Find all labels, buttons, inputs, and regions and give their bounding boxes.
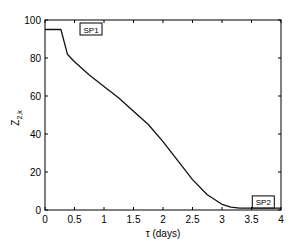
annotation-sp1: SP1 (80, 23, 102, 35)
y-axis-label-subscript: 2,k (16, 110, 23, 120)
x-tick-label: 0.5 (68, 214, 82, 225)
svg-text:SP2: SP2 (256, 198, 272, 207)
svg-text:SP1: SP1 (83, 26, 99, 35)
x-tick-label: 3 (219, 214, 225, 225)
line-chart: 00.511.522.533.54020406080100 SP1SP2 τ (… (0, 0, 296, 247)
x-tick-label: 1 (101, 214, 107, 225)
x-tick-label: 2 (160, 214, 166, 225)
y-tick-label: 0 (35, 205, 41, 216)
annotation-sp2: SP2 (252, 196, 274, 208)
x-axis-label: τ (days) (146, 228, 181, 239)
x-tick-label: 0 (42, 214, 48, 225)
y-tick-label: 20 (30, 167, 42, 178)
y-tick-label: 80 (30, 53, 42, 64)
y-tick-label: 40 (30, 129, 42, 140)
x-tick-label: 3.5 (245, 214, 259, 225)
x-tick-label: 4 (278, 214, 284, 225)
plot-area (45, 20, 281, 210)
y-tick-label: 100 (24, 15, 41, 26)
x-tick-label: 2.5 (186, 214, 200, 225)
y-axis-label: Z2,k (10, 110, 23, 126)
y-tick-label: 60 (30, 91, 42, 102)
axes-frame (45, 20, 281, 210)
x-tick-label: 1.5 (127, 214, 141, 225)
